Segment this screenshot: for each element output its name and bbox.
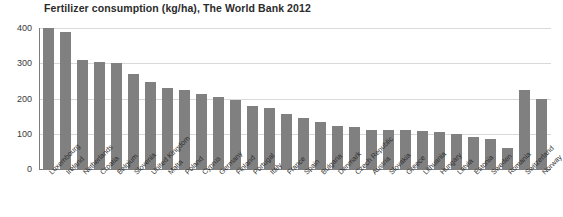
bar (179, 90, 190, 169)
y-axis-tick-label: 0 (27, 164, 32, 174)
y-axis-tick-label: 300 (17, 58, 32, 68)
y-axis-tick-label: 400 (17, 23, 32, 33)
bar (111, 63, 122, 169)
bar (43, 28, 54, 169)
y-axis: 0100200300400 (0, 28, 37, 169)
bars-layer (40, 28, 550, 169)
y-axis-tick-label: 200 (17, 94, 32, 104)
y-axis-tick-label: 100 (17, 129, 32, 139)
chart-title: Fertilizer consumption (kg/ha), The Worl… (44, 2, 311, 14)
bar (281, 114, 292, 169)
bar (77, 60, 88, 169)
x-axis-labels: LuxembourgIrelandNetherlandsCroatiaBelgi… (40, 170, 550, 217)
